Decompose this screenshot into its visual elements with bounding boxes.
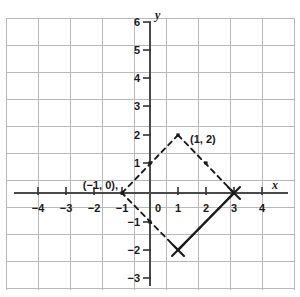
y-axis-label: y bbox=[153, 8, 161, 22]
x-tick-label-pos2: 2 bbox=[203, 202, 209, 214]
y-tick-label-pos5: 5 bbox=[134, 44, 140, 56]
x-tick-label-pos1: 1 bbox=[175, 202, 181, 214]
x-tick-label-neg2: −2 bbox=[88, 202, 101, 214]
vertex-dot-1-2 bbox=[176, 133, 179, 136]
x-axis-label: x bbox=[271, 178, 278, 192]
y-tick-label-pos4: 4 bbox=[134, 72, 141, 84]
y-tick-label-pos2: 2 bbox=[134, 129, 140, 141]
coordinate-plane-figure: −4 −3 −2 −1 0 1 2 3 4 6 5 4 3 2 1 −1 −2 … bbox=[0, 0, 300, 297]
vertex-dot-2-1 bbox=[204, 161, 207, 164]
x-tick-label-pos3: 3 bbox=[231, 202, 237, 214]
x-tick-label-neg3: −3 bbox=[60, 202, 73, 214]
y-tick-label-neg3: −3 bbox=[127, 272, 140, 284]
graph-canvas: −4 −3 −2 −1 0 1 2 3 4 6 5 4 3 2 1 −1 −2 … bbox=[0, 0, 300, 297]
x-tick-label-neg1: −1 bbox=[116, 202, 129, 214]
annotation-point-neg1-0: (−1, 0), bbox=[83, 179, 118, 191]
x-tick-label-zero: 0 bbox=[155, 202, 161, 214]
y-tick-label-pos3: 3 bbox=[134, 100, 140, 112]
x-tick-label-neg4: −4 bbox=[32, 202, 45, 214]
x-tick-label-pos4: 4 bbox=[259, 202, 266, 214]
y-tick-label-pos6: 6 bbox=[134, 16, 140, 28]
vertex-dot-0-neg1 bbox=[148, 220, 151, 223]
y-tick-label-pos1: 1 bbox=[134, 157, 140, 169]
vertex-dot-0-1 bbox=[148, 161, 151, 164]
y-tick-label-neg1: −1 bbox=[127, 216, 140, 228]
vertex-dot-neg1-0 bbox=[120, 191, 123, 194]
annotation-point-1-2: (1, 2) bbox=[190, 133, 216, 145]
y-tick-label-neg2: −2 bbox=[127, 244, 140, 256]
